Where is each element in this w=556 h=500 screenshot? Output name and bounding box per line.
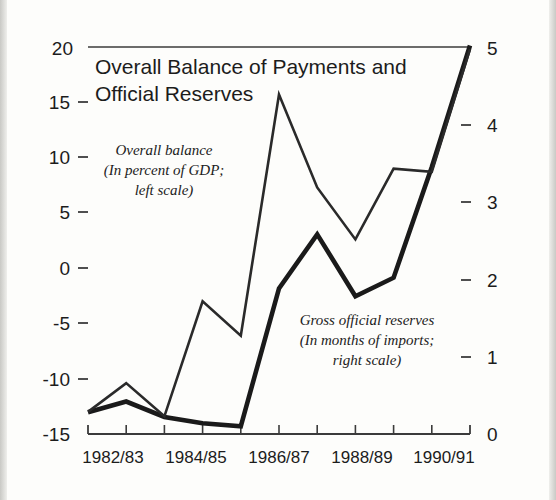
x-tick-marks	[126, 425, 432, 434]
right-tick-label-5: 0	[487, 424, 498, 445]
gross-reserves-annotation-line-1: Gross official reserves	[300, 312, 435, 328]
left-tick-label-7: -15	[43, 424, 70, 445]
left-tick-group-7: -15	[43, 424, 70, 445]
left-tick-label-0: 20	[52, 38, 73, 59]
left-tick-group-4: 0	[59, 258, 88, 279]
right-tick-label-0: 5	[487, 38, 498, 59]
right-tick-group-1: 4	[461, 115, 498, 136]
right-tick-group-0: 5	[487, 38, 498, 59]
chart-title-line-2: Official Reserves	[95, 82, 253, 105]
left-tick-group-2: 10	[49, 147, 88, 168]
figure-panel: 20 15 10 5 0 -5	[0, 0, 556, 500]
x-tick-label-0: 1982/83	[82, 448, 143, 467]
gross-reserves-annotation-line-3: right scale)	[333, 352, 402, 369]
left-tick-group-0: 20	[52, 38, 73, 59]
chart-title-line-1: Overall Balance of Payments and	[95, 55, 407, 78]
axis-frame	[88, 47, 470, 434]
left-tick-label-4: 0	[59, 258, 70, 279]
chart-canvas: 20 15 10 5 0 -5	[0, 0, 556, 500]
right-tick-label-4: 1	[487, 347, 498, 368]
x-tick-label-4: 1990/91	[413, 448, 474, 467]
left-tick-group-5: -5	[53, 313, 88, 334]
right-tick-label-2: 3	[487, 192, 498, 213]
right-tick-label-1: 4	[487, 115, 498, 136]
right-tick-group-5: 0	[487, 424, 498, 445]
overall-balance-annotation-line-3: left scale)	[135, 182, 194, 199]
x-tick-label-2: 1986/87	[248, 448, 309, 467]
right-tick-group-2: 3	[461, 192, 498, 213]
gross-reserves-annotation-line-2: (In months of imports;	[300, 332, 435, 349]
left-tick-label-1: 15	[49, 92, 70, 113]
left-tick-label-2: 10	[49, 147, 70, 168]
overall-balance-annotation-line-2: (In percent of GDP;	[104, 162, 225, 179]
left-tick-group-3: 5	[59, 202, 88, 223]
left-tick-label-6: -10	[43, 369, 70, 390]
page-title: Overall Balance of Payments and Official…	[95, 55, 407, 105]
left-tick-label-3: 5	[59, 202, 70, 223]
right-tick-group-4: 1	[461, 347, 498, 368]
x-tick-label-3: 1988/89	[331, 448, 392, 467]
left-tick-label-5: -5	[53, 313, 70, 334]
gross-reserves-annotation: Gross official reserves (In months of im…	[300, 312, 435, 369]
right-axis: 5 4 3 2 1 0	[461, 38, 498, 445]
x-axis-labels: 1982/83 1984/85 1986/87 1988/89 1990/91	[82, 448, 474, 467]
overall-balance-annotation: Overall balance (In percent of GDP; left…	[104, 142, 225, 199]
right-tick-group-3: 2	[461, 270, 498, 291]
overall-balance-annotation-line-1: Overall balance	[115, 142, 212, 158]
left-tick-group-1: 15	[49, 92, 88, 113]
right-tick-label-3: 2	[487, 270, 498, 291]
left-tick-group-6: -10	[43, 369, 88, 390]
left-axis: 20 15 10 5 0 -5	[43, 38, 88, 445]
x-tick-label-1: 1984/85	[165, 448, 226, 467]
